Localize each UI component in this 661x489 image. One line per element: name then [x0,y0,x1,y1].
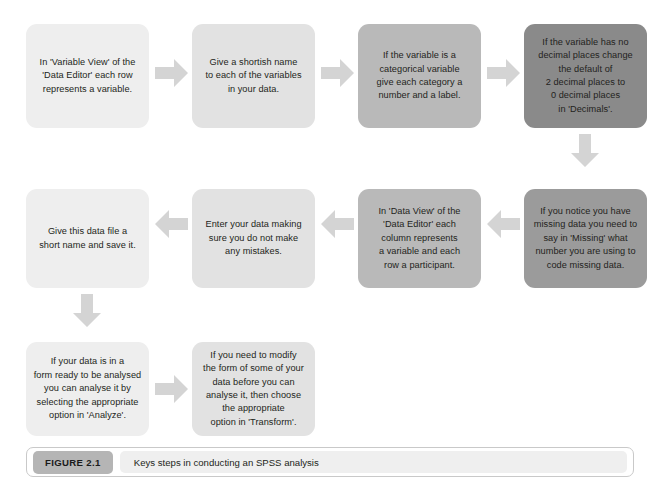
flow-step-7: Enter your data making sure you do not m… [192,189,315,288]
flow-step-1-text: In 'Variable View' of the 'Data Editor' … [40,56,136,96]
flow-step-4-text: If the variable has no decimal places ch… [538,36,633,116]
arrow-right-icon-step1-step2 [155,58,189,88]
arrow-right-icon-step9-step10 [155,374,189,404]
arrow-right-icon-step3-step4 [487,58,521,88]
flow-step-10: If you need to modify the form of some o… [192,342,315,436]
arrow-left-icon-step7-step8 [155,209,189,239]
flow-step-9: If your data is in a form ready to be an… [26,342,149,436]
flow-step-2-text: Give a shortish name to each of the vari… [205,56,301,96]
flow-step-10-text: If you need to modify the form of some o… [203,349,304,429]
figure-caption-bar: FIGURE 2.1 Keys steps in conducting an S… [26,447,634,477]
flow-step-7-text: Enter your data making sure you do not m… [205,218,301,258]
arrow-right-icon-step2-step3 [321,58,355,88]
figure-container: In 'Variable View' of the 'Data Editor' … [0,0,661,489]
flow-step-5-text: If you notice you have missing data you … [534,205,637,272]
arrow-left-icon-step5-step6 [487,209,521,239]
arrow-down-icon-step4-step5 [570,134,600,168]
flow-step-6-text: In 'Data View' of the 'Data Editor' each… [378,205,460,272]
flow-step-4: If the variable has no decimal places ch… [524,24,647,128]
flow-step-2: Give a shortish name to each of the vari… [192,24,315,128]
arrow-left-icon-step6-step7 [321,209,355,239]
flow-step-8: Give this data file a short name and sav… [26,189,149,288]
flow-step-9-text: If your data is in a form ready to be an… [34,355,141,422]
flow-step-5: If you notice you have missing data you … [524,189,647,288]
flow-step-3: If the variable is a categorical variabl… [358,24,481,128]
flow-step-1: In 'Variable View' of the 'Data Editor' … [26,24,149,128]
figure-number-badge: FIGURE 2.1 [33,451,113,474]
flow-step-8-text: Give this data file a short name and sav… [39,225,136,252]
arrow-down-icon-step8-step9 [72,294,102,328]
flow-step-3-text: If the variable is a categorical variabl… [377,49,463,103]
figure-caption-text: Keys steps in conducting an SPSS analysi… [120,451,627,473]
flow-step-6: In 'Data View' of the 'Data Editor' each… [358,189,481,288]
